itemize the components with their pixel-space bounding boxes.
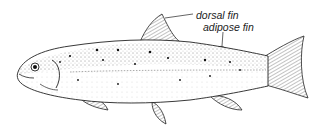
dorsal-fin-label: dorsal fin [196, 10, 239, 21]
anal-fin [210, 96, 242, 110]
adipose-fin-leader [222, 32, 223, 46]
pelvic-fin [152, 102, 166, 124]
trout-illustration [0, 0, 318, 133]
fish-diagram: dorsal fin adipose fin [0, 0, 318, 133]
dorsal-fin-leader [165, 14, 193, 18]
caudal-fin [262, 36, 308, 98]
adipose-fin-label: adipose fin [203, 22, 254, 33]
dorsal-fin [140, 14, 180, 42]
